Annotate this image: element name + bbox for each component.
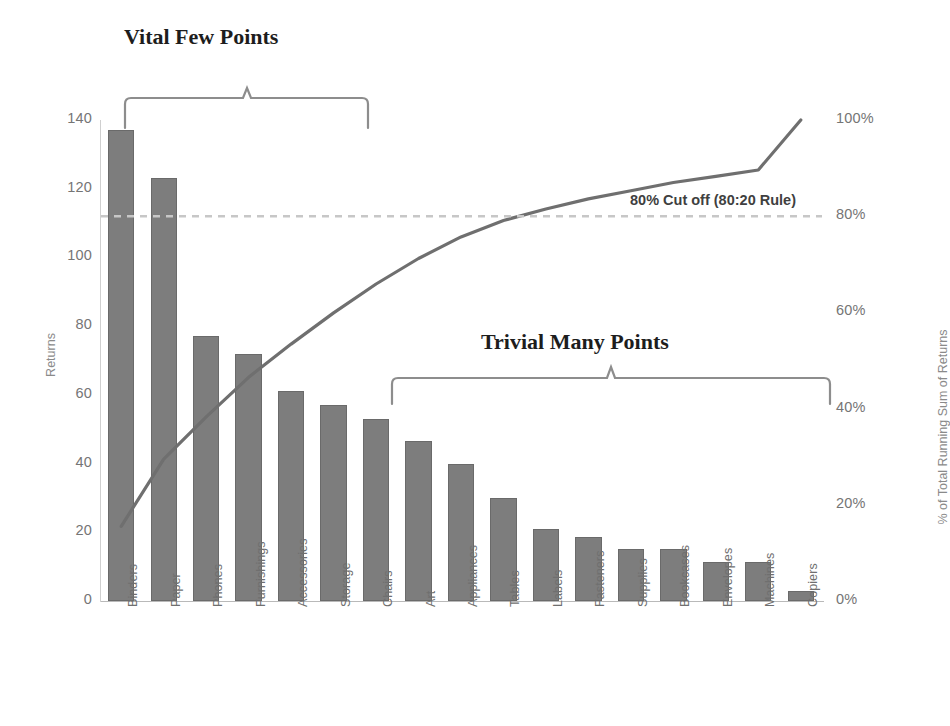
trivial-many-points-label: Trivial Many Points <box>481 329 669 355</box>
vital-few-points-label: Vital Few Points <box>124 24 278 50</box>
cumulative-line <box>121 120 801 526</box>
cutoff-rule-label: 80% Cut off (80:20 Rule) <box>630 192 796 208</box>
vital-few-bracket <box>125 88 368 128</box>
trivial-many-bracket <box>392 367 830 404</box>
